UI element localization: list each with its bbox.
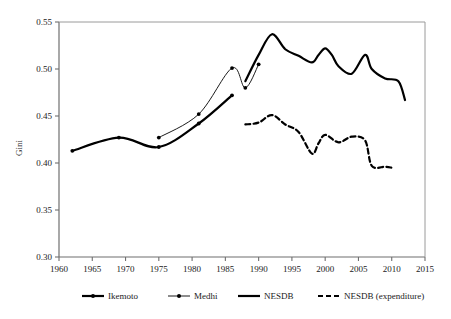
legend-marker (177, 294, 181, 298)
series-line (245, 115, 391, 168)
chart-legend: IkemotoMedhiNESDBNESDB (expenditure) (82, 291, 424, 301)
legend-marker (91, 294, 95, 298)
x-tick-label: 2000 (316, 264, 335, 274)
legend-label: Medhi (194, 291, 218, 301)
y-tick-label: 0.50 (36, 64, 52, 74)
series-line (72, 95, 232, 150)
data-point-marker (257, 62, 261, 66)
data-point-marker (157, 136, 161, 140)
chart-figure: Gini 0.300.350.400.450.500.55 1960196519… (0, 0, 451, 319)
legend-item-nesdb[interactable]: NESDB (238, 291, 294, 301)
series-nesdb-expenditure (245, 115, 391, 168)
x-tick-label: 1990 (250, 264, 269, 274)
x-tick-label: 1975 (150, 264, 169, 274)
data-point-marker (117, 136, 121, 140)
legend-item-ikemoto[interactable]: Ikemoto (82, 291, 138, 301)
legend-label: Ikemoto (108, 291, 138, 301)
x-axis-ticks: 1960196519701975198019851990199520002005… (50, 257, 435, 274)
series-layer (70, 34, 405, 168)
y-axis-ticks: 0.300.350.400.450.500.55 (36, 17, 59, 262)
data-point-marker (243, 86, 247, 90)
y-axis-title: Gini (14, 140, 24, 157)
legend-item-medhi[interactable]: Medhi (168, 291, 218, 301)
x-tick-label: 1965 (83, 264, 102, 274)
series-line (245, 34, 405, 100)
y-tick-label: 0.45 (36, 111, 52, 121)
x-tick-label: 1980 (183, 264, 202, 274)
data-point-marker (230, 93, 234, 97)
series-ikemoto (70, 93, 234, 152)
legend-label: NESDB (expenditure) (344, 291, 424, 301)
data-point-marker (197, 122, 201, 126)
legend-label: NESDB (264, 291, 294, 301)
x-tick-label: 1985 (216, 264, 235, 274)
series-medhi (157, 62, 261, 139)
x-tick-label: 2015 (416, 264, 435, 274)
x-tick-label: 2010 (383, 264, 402, 274)
series-nesdb (245, 34, 405, 100)
data-point-marker (197, 112, 201, 116)
gini-line-chart: Gini 0.300.350.400.450.500.55 1960196519… (0, 0, 451, 319)
y-tick-label: 0.35 (36, 205, 52, 215)
data-point-marker (230, 66, 234, 70)
x-tick-label: 1960 (50, 264, 69, 274)
data-point-marker (157, 145, 161, 149)
data-point-marker (70, 149, 74, 153)
x-tick-label: 1995 (283, 264, 302, 274)
y-tick-label: 0.40 (36, 158, 52, 168)
y-tick-label: 0.55 (36, 17, 52, 27)
x-tick-label: 1970 (117, 264, 136, 274)
legend-item-nesdb-expenditure[interactable]: NESDB (expenditure) (318, 291, 424, 301)
x-tick-label: 2005 (349, 264, 368, 274)
series-line (159, 64, 259, 137)
y-tick-label: 0.30 (36, 252, 52, 262)
